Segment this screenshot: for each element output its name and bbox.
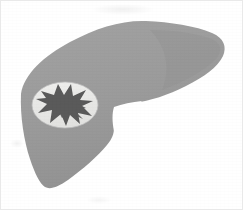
liver-illustration — [0, 0, 243, 210]
figure-canvas: Liver anatomical illustration liver gray… — [0, 0, 243, 210]
